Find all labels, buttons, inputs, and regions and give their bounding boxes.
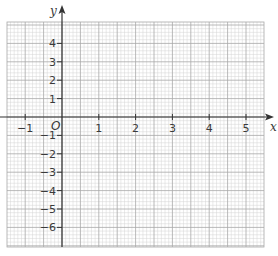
coordinate-grid: −1123454321−1−2−3−4−5−6 x y O [0,0,278,256]
y-tick-label: 4 [49,37,56,50]
origin-label: O [51,119,60,133]
y-tick-label: 2 [49,74,56,87]
y-tick-label: 1 [49,93,56,106]
x-tick-label: 4 [206,122,213,135]
tick-labels: −1123454321−1−2−3−4−5−6 [17,37,249,234]
x-tick-label: 1 [95,122,102,135]
x-axis-label: x [270,120,277,134]
y-tick-label: −4 [40,185,56,198]
y-axis-label: y [49,4,57,18]
y-tick-label: −2 [40,148,56,161]
y-tick-label: −3 [40,166,56,179]
y-tick-label: −6 [40,221,56,234]
x-tick-label: −1 [17,122,33,135]
x-tick-label: 2 [132,122,139,135]
x-tick-label: 3 [169,122,176,135]
x-tick-label: 5 [243,122,250,135]
y-tick-label: −5 [40,203,56,216]
y-tick-label: 3 [49,56,56,69]
